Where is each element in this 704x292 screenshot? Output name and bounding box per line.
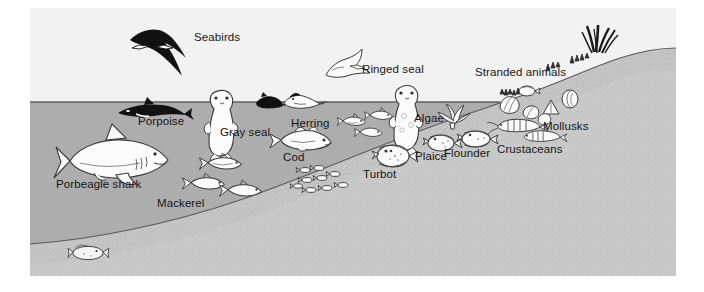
scene-svg xyxy=(30,8,676,276)
label-turbot: Turbot xyxy=(363,168,396,180)
scene-illustration xyxy=(30,8,676,276)
label-seabirds: Seabirds xyxy=(194,31,240,43)
label-porpoise: Porpoise xyxy=(138,115,184,127)
label-mollusks: Mollusks xyxy=(543,120,589,132)
label-flounder: Flounder xyxy=(444,147,490,159)
label-porbeagle-shark: Porbeagle shark xyxy=(56,178,141,190)
label-gray-seal: Gray seal xyxy=(220,126,270,138)
food-web-figure: Seabirds Ringed seal Stranded animals Po… xyxy=(0,0,704,292)
label-herring: Herring xyxy=(291,117,329,129)
mollusk-icon-2 xyxy=(523,106,539,119)
label-stranded-animals: Stranded animals xyxy=(475,66,566,78)
label-plaice: Plaice xyxy=(415,150,447,162)
mollusk-icon-4 xyxy=(562,90,578,108)
label-mackerel: Mackerel xyxy=(157,197,204,209)
label-crustaceans: Crustaceans xyxy=(497,143,563,155)
label-ringed-seal: Ringed seal xyxy=(362,63,424,75)
label-algae: Algae xyxy=(414,112,444,124)
label-cod: Cod xyxy=(283,151,304,163)
